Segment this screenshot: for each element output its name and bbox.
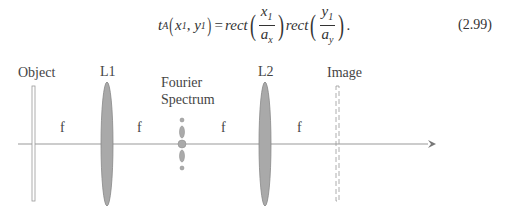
label-l2: L2 (258, 64, 274, 80)
spectrum-dot-top (180, 118, 184, 122)
spectrum-lobe-upper (180, 126, 185, 138)
axis-arrow-icon (428, 140, 436, 148)
focal-label-1: f (60, 120, 65, 136)
lens-l2 (259, 82, 271, 206)
label-l1: L1 (100, 64, 116, 80)
spectrum-dot-bottom (180, 166, 184, 170)
object-plane (32, 86, 35, 201)
lens-l1 (101, 82, 113, 206)
label-object: Object (18, 65, 55, 81)
spectrum-lobe-lower (180, 150, 185, 162)
focal-label-2: f (137, 120, 142, 136)
focal-label-3: f (221, 120, 226, 136)
label-spectrum: Spectrum (161, 92, 215, 108)
label-fourier: Fourier (161, 75, 202, 91)
label-image: Image (327, 65, 362, 81)
spectrum-center (178, 140, 186, 148)
focal-label-4: f (297, 120, 302, 136)
fourier-optics-diagram (0, 0, 507, 219)
